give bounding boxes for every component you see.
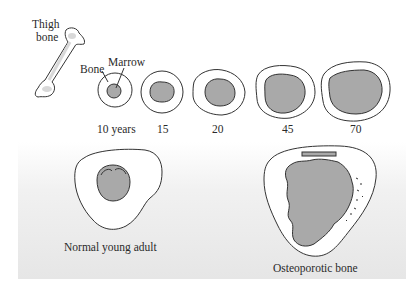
age-label-10: 10 years — [97, 123, 136, 135]
cross-section-70 — [321, 62, 390, 121]
normal-young-adult-caption: Normal young adult — [64, 241, 157, 253]
bone-diagram-figure: Thigh bone Bone Marrow 10 years 15 20 45… — [0, 0, 420, 294]
age-label-45: 45 — [282, 123, 294, 135]
thigh-label-line1: Thigh — [32, 18, 59, 30]
age-label-70: 70 — [350, 123, 362, 135]
cross-section-45 — [256, 66, 315, 119]
bone-label: Bone — [80, 63, 104, 75]
normal-young-adult-cross-section — [75, 149, 162, 229]
thigh-label-line2: bone — [36, 31, 58, 43]
cross-section-10-years — [98, 73, 132, 107]
cross-section-20 — [193, 70, 245, 116]
diagram-drawing — [0, 0, 420, 294]
age-label-15: 15 — [157, 123, 169, 135]
cross-section-15 — [141, 71, 183, 113]
marrow-label: Marrow — [108, 56, 145, 68]
osteoporotic-bone-cross-section — [264, 146, 376, 256]
age-label-20: 20 — [212, 123, 224, 135]
osteoporotic-bone-caption: Osteoporotic bone — [273, 262, 358, 274]
